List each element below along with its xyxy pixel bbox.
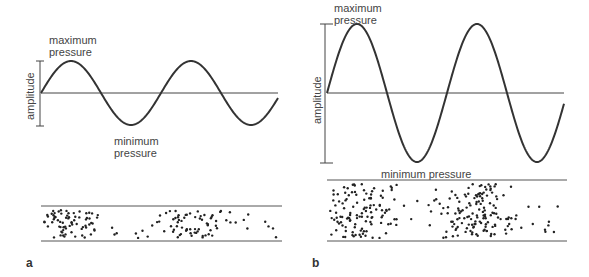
particles-a (43, 209, 277, 239)
panel-a-graphic (36, 61, 282, 241)
max-label-line2: pressure (49, 46, 97, 58)
particles-b (329, 183, 559, 239)
max-label-line2: pressure (334, 14, 382, 26)
min-label-line1: minimum (114, 135, 159, 147)
max-label-line1: maximum (49, 34, 97, 46)
max-label-line1: maximum (334, 2, 382, 14)
min-label-line2: pressure (114, 147, 159, 159)
panel-letter-a: a (26, 256, 33, 270)
min-pressure-label-a: minimum pressure (114, 135, 159, 159)
panel-b-graphic (320, 24, 567, 241)
panel-letter-b: b (312, 256, 319, 270)
min-pressure-label-b: minimum pressure (381, 168, 471, 180)
max-pressure-label-a: maximum pressure (49, 34, 97, 58)
amplitude-label-a: amplitude (24, 72, 36, 120)
amplitude-label-b: amplitude (311, 76, 323, 124)
max-pressure-label-b: maximum pressure (334, 2, 382, 26)
